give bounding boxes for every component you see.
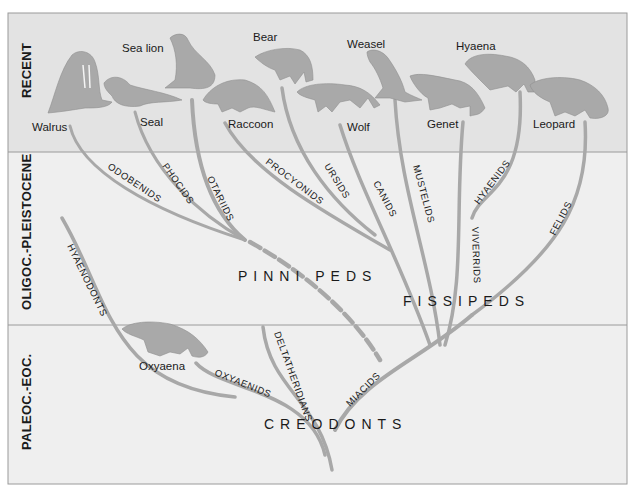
carnivore-phylogeny-diagram: RECENT OLIGOC.-PLEISTOCENE PALEOC.-EOC. bbox=[0, 0, 634, 492]
animal-label-bear: Bear bbox=[253, 31, 277, 43]
branch-label-viverrids: VIVERRIDS bbox=[470, 227, 483, 284]
period-label-oligoc-pleistocene: OLIGOC.-PLEISTOCENE bbox=[19, 154, 34, 310]
animal-label-hyaena: Hyaena bbox=[456, 40, 496, 52]
animal-label-wolf: Wolf bbox=[347, 121, 371, 133]
animal-label-genet: Genet bbox=[427, 118, 459, 130]
period-label-paleoc-eoc: PALEOC.-EOC. bbox=[19, 353, 34, 450]
period-label-recent: RECENT bbox=[19, 43, 34, 98]
animal-label-weasel: Weasel bbox=[347, 38, 385, 50]
group-label-pinnipeds: PINNI PEDS bbox=[238, 268, 377, 284]
animal-label-walrus: Walrus bbox=[32, 121, 68, 133]
group-label-fissipeds: FISSIPEDS bbox=[403, 293, 530, 309]
animal-label-oxyaena: Oxyaena bbox=[139, 360, 186, 372]
group-label-creodonts: CREODONTS bbox=[264, 416, 407, 432]
band-paleoc-eoc bbox=[8, 325, 627, 484]
animal-label-seal: Seal bbox=[140, 116, 163, 128]
animal-label-leopard: Leopard bbox=[533, 118, 575, 130]
animal-label-raccoon: Raccoon bbox=[228, 118, 273, 130]
animal-label-sea-lion: Sea lion bbox=[122, 42, 164, 54]
